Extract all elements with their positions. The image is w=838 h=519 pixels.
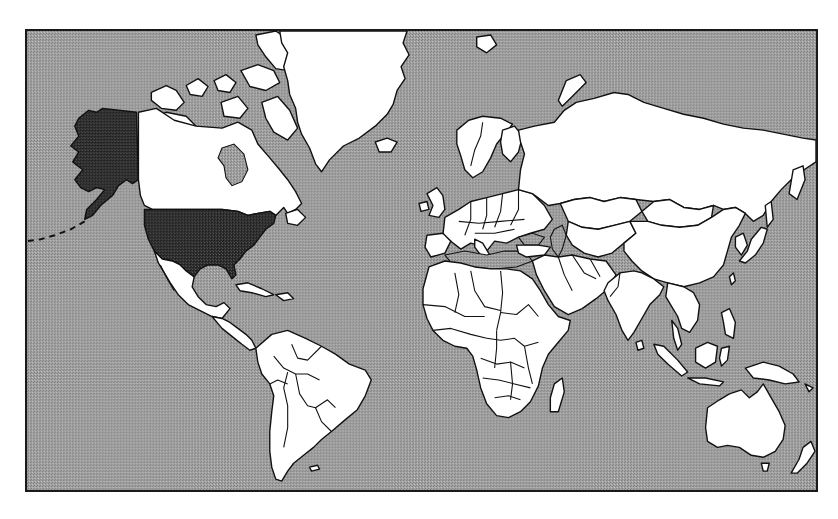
sri-lanka: [636, 340, 644, 350]
ireland: [419, 202, 429, 212]
page: [0, 0, 838, 519]
world-map: [27, 31, 816, 490]
tasmania: [761, 463, 769, 471]
world-map-frame: [25, 29, 818, 492]
